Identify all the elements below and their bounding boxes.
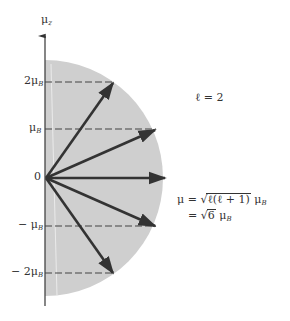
tick-label-minus1: − μB — [18, 219, 43, 234]
tick-sub: B — [38, 271, 43, 279]
tick-sub: B — [38, 224, 43, 232]
tick-label-minus2: − 2μB — [11, 266, 43, 281]
tick-sub: B — [36, 127, 41, 135]
tick-label-plus1: μB — [29, 122, 41, 137]
angular-momentum-diagram — [0, 0, 290, 321]
eq2-unit-sub: B — [226, 215, 231, 223]
z-axis-label: μz — [41, 14, 52, 29]
axis-label-sub: z — [48, 19, 52, 27]
origin-text: 0 — [34, 170, 41, 183]
eq1-lhs: μ = — [177, 193, 197, 206]
l-value-text: ℓ = 2 — [195, 91, 223, 104]
magnitude-equation-line2: = √6 μB — [188, 209, 232, 225]
eq2-radicand: 6 — [207, 209, 216, 222]
magnitude-equation-line1: μ = √ℓ(ℓ + 1) μB — [177, 193, 267, 209]
eq1-unit-sub: B — [261, 199, 266, 207]
tick-main: 2μ — [24, 74, 38, 87]
eq2-lhs: = — [188, 209, 197, 222]
quantum-number-label: ℓ = 2 — [195, 92, 223, 104]
eq1-radicand: ℓ(ℓ + 1) — [206, 193, 250, 206]
tick-main: − 2μ — [11, 265, 38, 278]
origin-label: 0 — [34, 171, 41, 183]
tick-label-plus2: 2μB — [24, 75, 43, 90]
tick-sub: B — [38, 80, 43, 88]
tick-main: − μ — [18, 218, 38, 231]
